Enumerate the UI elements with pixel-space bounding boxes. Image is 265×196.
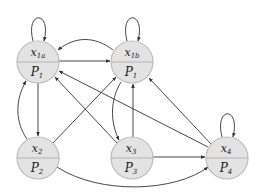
node-x1a: x1a P1: [17, 41, 59, 83]
edge-x4-to-x1b: [149, 78, 211, 144]
node-x1b: x1b P1: [111, 41, 153, 83]
edge-x1b-self-loop: [126, 18, 140, 41]
node-x3: x3 P3: [111, 137, 153, 179]
edge-x3-to-x1a: [55, 77, 117, 143]
edge-x2-to-x1a: [18, 81, 27, 139]
edge-x2-to-x1b: [53, 77, 116, 143]
edge-x1b-to-x3: [112, 82, 121, 140]
edge-x1b-to-x1a: [58, 40, 113, 51]
node-x2: x2 P2: [17, 137, 59, 179]
edge-x1a-self-loop: [32, 18, 46, 41]
edge-x4-self-loop: [221, 114, 235, 137]
node-x4: x4 P4: [206, 137, 248, 179]
state-graph-diagram: x1a P1 x1b P1 x2 P2 x3 P3 x4 P4: [0, 0, 265, 196]
